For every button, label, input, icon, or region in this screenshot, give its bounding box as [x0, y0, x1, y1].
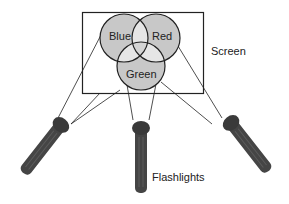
label-red: Red: [152, 30, 172, 42]
label-screen: Screen: [211, 45, 246, 57]
label-green: Green: [126, 68, 157, 80]
diagram-graphic: [0, 0, 289, 204]
flashlight-right: [220, 112, 276, 177]
additive-color-diagram: Blue Red Green Screen Flashlights: [0, 0, 289, 204]
label-blue: Blue: [109, 30, 131, 42]
flashlight-center: [132, 121, 150, 193]
label-flashlights: Flashlights: [152, 171, 205, 183]
flashlight-left: [16, 114, 72, 179]
